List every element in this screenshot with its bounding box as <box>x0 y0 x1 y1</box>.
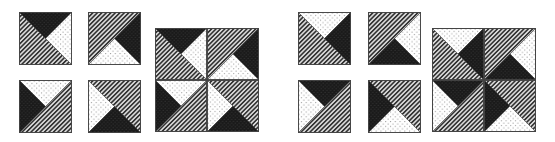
tile-rb-tr <box>484 28 536 80</box>
tile-r1 <box>298 12 351 65</box>
tile-lb-bl <box>155 80 207 132</box>
tile-l3 <box>19 80 72 133</box>
tile-l2 <box>88 12 141 65</box>
tile-l4 <box>88 80 141 133</box>
tile-lb-tr <box>207 28 259 80</box>
tile-r2 <box>368 12 421 65</box>
tile-r4 <box>368 80 421 133</box>
tile-rb-tl <box>432 28 484 80</box>
tile-r3 <box>298 80 351 133</box>
tile-rb-bl <box>432 80 484 132</box>
tile-rb-br <box>484 80 536 132</box>
tile-lb-tl <box>155 28 207 80</box>
tile-l1 <box>19 12 72 65</box>
tile-lb-br <box>207 80 259 132</box>
